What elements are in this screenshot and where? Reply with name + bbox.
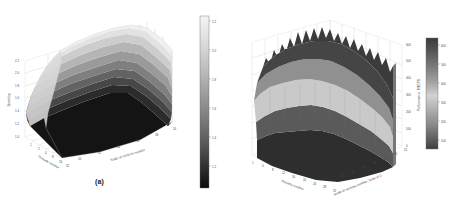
svg-text:10: 10: [78, 157, 82, 161]
svg-text:100: 100: [406, 127, 411, 131]
svg-text:600: 600: [441, 44, 446, 48]
svg-text:28: 28: [323, 185, 327, 189]
svg-text:18: 18: [384, 157, 388, 161]
svg-text:1.8: 1.8: [15, 84, 19, 88]
svg-text:600: 600: [406, 43, 411, 47]
svg-text:1.4: 1.4: [212, 136, 216, 140]
panel-b-z-axis: 0 100 200 300 400 500 600 Performance, M…: [406, 43, 421, 148]
svg-text:1.0: 1.0: [15, 135, 19, 139]
svg-text:Threads number: Threads number: [37, 155, 61, 171]
svg-text:400: 400: [441, 82, 446, 86]
panel-a-caption: (a): [95, 178, 104, 185]
svg-text:16: 16: [373, 161, 377, 165]
svg-text:1: 1: [30, 143, 32, 147]
svg-text:12: 12: [98, 151, 102, 155]
svg-text:500: 500: [441, 63, 446, 67]
svg-text:16: 16: [59, 160, 63, 164]
svg-text:Scale of vertices number: Scale of vertices number: [110, 148, 147, 163]
panel-a-surface: [26, 25, 172, 158]
svg-text:200: 200: [406, 110, 411, 114]
svg-text:Performance, MTEPS: Performance, MTEPS: [417, 78, 421, 111]
svg-text:1.2: 1.2: [15, 122, 19, 126]
svg-text:4: 4: [45, 151, 47, 155]
svg-text:20: 20: [173, 127, 177, 131]
figure-two-surface-plots: 1.0 1.2 1.4 1.6 1.8 2.0 2.2 Speedup 1 2 …: [0, 0, 460, 208]
svg-text:8: 8: [52, 155, 54, 159]
panel-a-surface-plot: 1.0 1.2 1.4 1.6 1.8 2.0 2.2 Speedup 1 2 …: [0, 0, 230, 208]
svg-text:14: 14: [117, 145, 121, 149]
svg-text:1.8: 1.8: [212, 78, 216, 82]
svg-text:300: 300: [406, 93, 411, 97]
svg-text:20: 20: [394, 152, 398, 156]
svg-text:10: 10: [340, 174, 344, 178]
svg-text:1: 1: [252, 161, 254, 165]
svg-text:1.4: 1.4: [15, 109, 19, 113]
svg-text:12: 12: [282, 171, 286, 175]
panel-a-colorbar: 2.2 2.0 1.8 1.6 1.4 1.2: [200, 16, 216, 188]
svg-text:4: 4: [262, 164, 264, 168]
panel-a-z-axis: 1.0 1.2 1.4 1.6 1.8 2.0 2.2 Speedup: [7, 59, 19, 139]
svg-text:1.6: 1.6: [212, 107, 216, 111]
svg-text:200: 200: [441, 120, 446, 124]
svg-text:1.6: 1.6: [15, 96, 19, 100]
svg-text:20: 20: [303, 178, 307, 182]
svg-text:1.2: 1.2: [212, 165, 216, 169]
svg-text:16: 16: [136, 139, 140, 143]
panel-b-surface-plot: 0 100 200 300 400 500 600 Performance, M…: [230, 0, 460, 208]
panel-b-colorbar: 600 500 400 300 200 100: [426, 38, 446, 149]
svg-text:2.0: 2.0: [15, 71, 19, 75]
svg-text:100: 100: [441, 139, 446, 143]
svg-text:12: 12: [351, 170, 355, 174]
svg-text:8: 8: [272, 168, 274, 172]
svg-text:22: 22: [404, 148, 408, 152]
svg-text:24: 24: [313, 182, 317, 186]
svg-text:2: 2: [38, 147, 40, 151]
svg-text:14: 14: [362, 165, 366, 169]
svg-text:Speedup: Speedup: [7, 93, 11, 106]
svg-text:32: 32: [66, 164, 70, 168]
svg-text:18: 18: [155, 133, 159, 137]
panel-a-svg: 1.0 1.2 1.4 1.6 1.8 2.0 2.2 Speedup 1 2 …: [0, 0, 230, 208]
svg-text:400: 400: [406, 76, 411, 80]
svg-text:2.2: 2.2: [212, 20, 216, 24]
svg-text:2.2: 2.2: [15, 59, 19, 63]
panel-b-svg: 0 100 200 300 400 500 600 Performance, M…: [230, 0, 460, 208]
svg-text:500: 500: [406, 59, 411, 63]
svg-text:16: 16: [292, 175, 296, 179]
panel-b-surface: [254, 27, 396, 182]
svg-text:Threads number: Threads number: [280, 179, 305, 192]
svg-text:2.0: 2.0: [212, 49, 216, 53]
svg-text:300: 300: [441, 101, 446, 105]
